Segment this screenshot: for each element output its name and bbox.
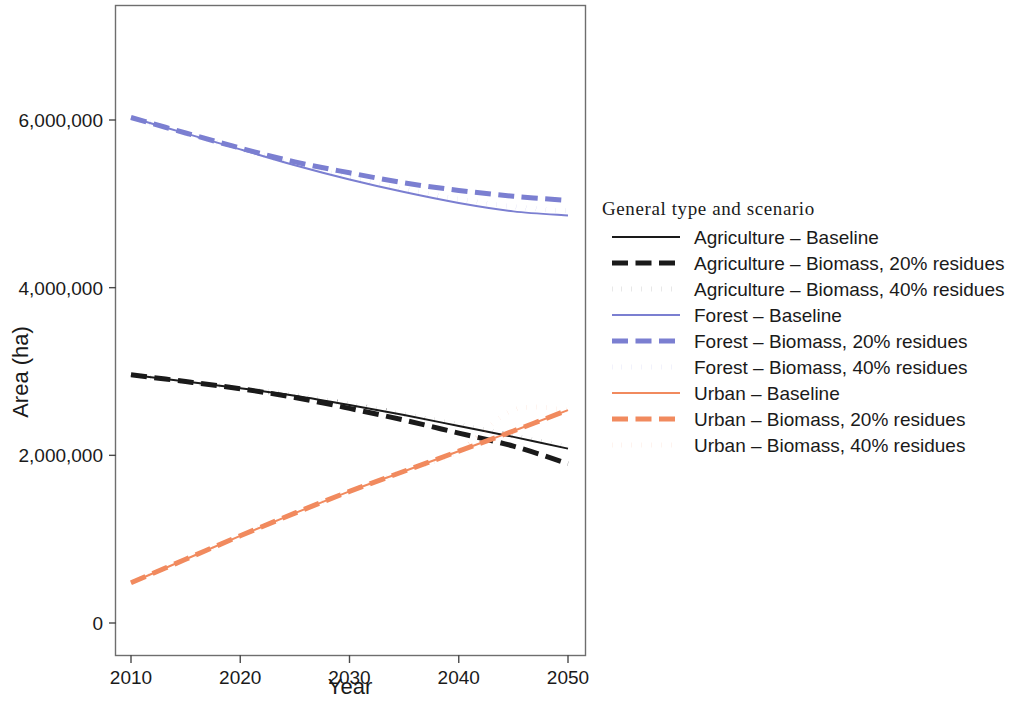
legend-label: Urban – Biomass, 20% residues [694,409,965,430]
legend-label: Forest – Biomass, 20% residues [694,331,968,352]
legend-label: Agriculture – Biomass, 20% residues [694,253,1004,274]
legend-label: Agriculture – Biomass, 40% residues [694,279,1004,300]
x-tick-label: 2020 [219,667,261,688]
y-tick-label: 4,000,000 [18,278,103,299]
legend-title: General type and scenario [602,198,815,219]
area-projection-line-chart: 02,000,0004,000,0006,000,000 20102020203… [0,0,1018,702]
x-tick-label: 2050 [547,667,589,688]
y-tick-label: 0 [92,613,103,634]
legend-label: Urban – Baseline [694,383,840,404]
y-axis-title: Area (ha) [8,326,33,418]
legend-label: Forest – Baseline [694,305,842,326]
x-axis-title: Year [328,674,372,699]
legend-label: Forest – Biomass, 40% residues [694,357,968,378]
x-tick-label: 2010 [110,667,152,688]
y-tick-label: 2,000,000 [18,445,103,466]
legend-label: Urban – Biomass, 40% residues [694,435,965,456]
y-tick-label: 6,000,000 [18,110,103,131]
legend-label: Agriculture – Baseline [694,227,879,248]
x-tick-label: 2040 [438,667,480,688]
